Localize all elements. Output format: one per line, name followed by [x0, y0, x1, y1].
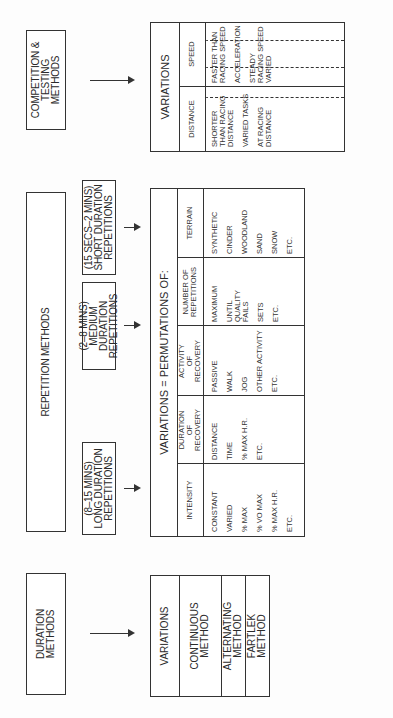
- activity-of-recovery-list: PASSIVE WALK JOG OTHER ACTIVITY ETC.: [211, 328, 286, 392]
- list-item: AT RACING DISTANCE: [257, 89, 273, 147]
- column-header: NUMBER OF REPETITIONS: [177, 258, 203, 326]
- list-item: WOODLAND: [241, 190, 249, 254]
- column-header: DURATION OF RECOVERY: [177, 396, 203, 464]
- terrain-list: SYNTHETIC CINDER WOODLAND SAND SNOW ETC.: [211, 190, 301, 254]
- training-methods-diagram: DURATION METHODS REPETITION METHODS COMP…: [0, 0, 393, 718]
- list-item: ACCELERATION: [234, 23, 242, 83]
- arrow-down-icon: [124, 488, 136, 489]
- arrow-down-icon: [124, 227, 136, 228]
- list-item: ETC.: [286, 466, 294, 532]
- suffix-label: REPETITIONS: [104, 456, 114, 520]
- list-item: VARIED: [226, 466, 234, 532]
- list-item: ETC.: [271, 328, 279, 392]
- table-header: VARIATIONS: [151, 576, 179, 696]
- table-title: VARIATIONS = PERMUTATIONS OF:: [151, 189, 177, 536]
- list-item: SNOW: [271, 190, 279, 254]
- competition-variations-table: VARIATIONS DISTANCE SPEED SHORTER THAN R…: [150, 22, 345, 152]
- duration-label: MEDIUM DURATION: [89, 283, 109, 369]
- list-item: FASTER THAN RACING SPEED: [211, 23, 227, 83]
- list-item: DISTANCE: [211, 398, 219, 460]
- number-of-repetitions-list: MAXIMUM UNTIL QUALITY FAILS SETS ETC.: [211, 276, 287, 322]
- list-item: CINDER: [226, 190, 234, 254]
- arrow-down-icon: [90, 633, 130, 634]
- distance-group-1: SHORTER THAN RACING DISTANCE VARIED TASK…: [211, 89, 280, 147]
- medium-duration-box: (2–8 MINS) MEDIUM DURATION REPETITIONS: [82, 282, 116, 370]
- column-header: DISTANCE: [179, 87, 205, 151]
- table-row: CONTINUOUS METHOD: [179, 576, 221, 696]
- duration-methods-box: DURATION METHODS: [26, 573, 66, 695]
- column-header: SPEED: [179, 21, 205, 87]
- column-header: INTENSITY: [177, 464, 203, 536]
- repetition-methods-box: REPETITION METHODS: [26, 192, 66, 532]
- list-item: % MAX: [241, 466, 249, 532]
- table-row: ALTERNATING METHOD: [221, 576, 245, 696]
- list-item: OTHER ACTIVITY: [256, 328, 264, 392]
- list-item: PASSIVE: [211, 328, 219, 392]
- list-item: JOG: [241, 328, 249, 392]
- suffix-label: REPETITIONS: [109, 294, 119, 358]
- permutations-table: VARIATIONS = PERMUTATIONS OF: INTENSITY …: [150, 188, 305, 537]
- list-item: TIME: [226, 398, 234, 460]
- list-item: VARIED TASKS: [242, 89, 250, 147]
- list-item: SAND: [256, 190, 264, 254]
- list-item: % VO MAX: [256, 466, 264, 532]
- table-title: VARIATIONS: [151, 23, 179, 151]
- list-item: UNTIL QUALITY FAILS: [226, 276, 250, 322]
- column-header: TERRAIN: [177, 188, 203, 258]
- arrow-down-icon: [90, 80, 130, 81]
- table-row: FARTLEK METHOD: [245, 576, 269, 696]
- list-item: STEADY RACING SPEED VARIED: [249, 23, 273, 83]
- duration-of-recovery-list: DISTANCE TIME % MAX H.R. ETC.: [211, 398, 271, 460]
- long-duration-box: (8–15 MINS) LONG DURATION REPETITIONS: [82, 442, 116, 535]
- list-item: SETS: [257, 276, 265, 322]
- duration-variations-table: VARIATIONS CONTINUOUS METHOD ALTERNATING…: [150, 575, 270, 697]
- list-item: SHORTER THAN RACING DISTANCE: [211, 89, 235, 147]
- list-item: % MAX H.R.: [271, 466, 279, 532]
- list-item: MAXIMUM: [211, 276, 219, 322]
- list-item: % MAX H.R.: [241, 398, 249, 460]
- list-item: ETC.: [286, 190, 294, 254]
- suffix-label: REPETITIONS: [104, 195, 114, 259]
- list-item: ETC.: [256, 398, 264, 460]
- list-item: CONSTANT: [211, 466, 219, 532]
- column-header: ACTIVITY OF RECOVERY: [177, 326, 203, 396]
- list-item: ETC.: [272, 276, 280, 322]
- competition-testing-box: COMPETITION & TESTING METHODS: [26, 30, 66, 130]
- arrow-down-icon: [124, 325, 136, 326]
- speed-group-1: FASTER THAN RACING SPEED ACCELERATION ST…: [211, 23, 280, 83]
- short-duration-box: (15 SECS–2 MINS) SHORT DURATION REPETITI…: [82, 180, 116, 275]
- list-item: SYNTHETIC: [211, 190, 219, 254]
- list-item: WALK: [226, 328, 234, 392]
- intensity-list: CONSTANT VARIED % MAX % VO MAX % MAX H.R…: [211, 466, 301, 532]
